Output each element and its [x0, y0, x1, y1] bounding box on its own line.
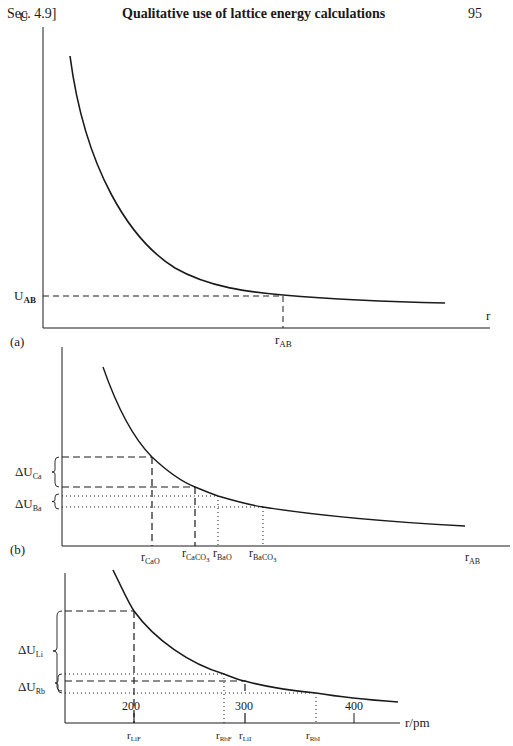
y-axis-label: U: [19, 9, 29, 24]
figure-a: [43, 27, 490, 328]
energy-curve: [113, 570, 398, 702]
r-lii-label: rLiI: [239, 729, 252, 743]
tick-label-300: 300: [235, 699, 253, 713]
panel-label-a: (a): [10, 334, 24, 349]
energy-curve: [70, 56, 445, 303]
brace-li: [53, 611, 62, 691]
delta-u-ca-label: ΔUCa: [15, 464, 42, 481]
figure-b: [52, 347, 510, 546]
tick-label-200: 200: [122, 699, 140, 713]
x-axis-label-c: r/pm: [405, 715, 430, 730]
brace-ba: [52, 494, 59, 509]
r-rbf-label: rRbF: [216, 729, 232, 743]
delta-u-ba-label: ΔUBa: [15, 496, 42, 513]
tick-label-400: 400: [345, 699, 363, 713]
energy-curve: [103, 367, 465, 526]
delta-u-li-label: ΔULi: [18, 642, 44, 659]
r-baco3-label: rBaCO3: [249, 546, 277, 564]
r-ab-label-b: rAB: [465, 550, 480, 566]
r-rbi-label: rRbI: [306, 729, 321, 743]
r-lif-label: rLiF: [127, 729, 141, 743]
panel-label-b: (b): [10, 542, 25, 557]
brace-ca: [52, 457, 59, 487]
figure-4-9: U r UAB rAB (a) ΔUCa ΔUBa rCaO rCaCO3 rB…: [0, 0, 513, 746]
r-caco3-label: rCaCO3: [182, 546, 210, 564]
r-ab-label: rAB: [275, 332, 292, 349]
u-ab-label: UAB: [14, 288, 36, 305]
brace-rb: [55, 674, 62, 693]
r-bao-label: rBaO: [213, 546, 232, 562]
delta-u-rb-label: ΔURb: [18, 679, 45, 696]
r-cao-label: rCaO: [141, 550, 160, 566]
x-axis-label: r: [486, 308, 491, 323]
